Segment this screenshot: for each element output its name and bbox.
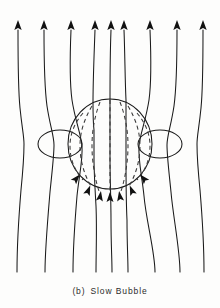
inflow-arrow-icon-3 bbox=[96, 191, 104, 202]
arrow-up-icon-6 bbox=[120, 20, 127, 30]
right-lobe bbox=[138, 130, 182, 158]
field-line-4 bbox=[93, 30, 96, 272]
arrow-up-icon-5 bbox=[107, 20, 114, 30]
figure-slow-bubble: (b)Slow Bubble bbox=[0, 0, 220, 308]
field-line-8 bbox=[167, 30, 180, 272]
arrow-up-icon-7 bbox=[146, 20, 153, 30]
inflow-arrow-icon-2 bbox=[83, 184, 93, 196]
arrow-up-icon-1 bbox=[14, 20, 21, 30]
inflow-arrow-icon-7 bbox=[137, 172, 149, 184]
arrow-up-icon-3 bbox=[67, 20, 74, 30]
inflow-arrow-icon-6 bbox=[127, 184, 137, 196]
arrow-up-icon-4 bbox=[91, 20, 98, 30]
field-line-3 bbox=[70, 30, 82, 272]
field-lines-right bbox=[139, 30, 204, 272]
inflow-arrow-icon-4 bbox=[107, 192, 114, 202]
field-lines-left bbox=[17, 30, 96, 272]
arrow-up-icon-2 bbox=[40, 20, 47, 30]
caption-label: (b) bbox=[72, 286, 85, 296]
arrow-up-icon-9 bbox=[199, 20, 206, 30]
field-line-1 bbox=[17, 30, 24, 272]
inflow-arrow-icon-1 bbox=[71, 172, 83, 184]
field-line-2 bbox=[44, 30, 54, 272]
inflow-arrow-icon-5 bbox=[116, 191, 124, 202]
top-arrowheads-group bbox=[14, 20, 206, 30]
caption-title: Slow Bubble bbox=[90, 286, 147, 296]
inner-dashed-line-5 bbox=[120, 102, 128, 194]
field-line-6 bbox=[124, 30, 128, 272]
field-line-9 bbox=[197, 30, 204, 272]
field-lines-center bbox=[110, 30, 128, 272]
field-line-diagram bbox=[0, 0, 220, 308]
figure-caption: (b)Slow Bubble bbox=[0, 286, 220, 296]
left-lobe bbox=[38, 130, 82, 158]
arrow-up-icon-8 bbox=[173, 20, 180, 30]
